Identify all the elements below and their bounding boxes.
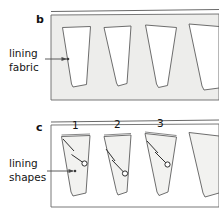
panel-b-leader-dot <box>67 58 70 61</box>
panel-b-group <box>45 10 219 101</box>
panel-letter-b: b <box>36 14 44 25</box>
callout-lining-shapes: lining shapes <box>9 157 57 184</box>
panel-c-leader-dot <box>74 170 77 173</box>
panel-c-shape-1-circle-mark <box>82 161 87 166</box>
panel-letter-c: c <box>36 122 43 133</box>
panel-b-selvedge-line <box>51 10 219 12</box>
shape-number-2: 2 <box>114 119 121 130</box>
shape-number-1: 1 <box>72 120 79 131</box>
callout-lining-fabric: lining fabric <box>9 47 55 74</box>
panel-c-group <box>47 120 219 207</box>
lining-figure: b c lining fabric lining shapes 1 2 3 <box>0 0 219 216</box>
panel-c-shape-2-circle-mark <box>122 171 127 176</box>
panel-c-shape-3-circle-mark <box>165 162 170 167</box>
shape-number-3: 3 <box>157 118 164 129</box>
